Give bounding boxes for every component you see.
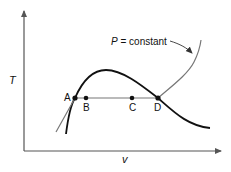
pressure-symbol: P bbox=[111, 36, 118, 47]
point-d-label: D bbox=[154, 103, 161, 113]
curve-label: P = constant bbox=[111, 37, 167, 47]
point-a bbox=[72, 95, 77, 100]
tv-diagram: T v P = constant A B C D bbox=[0, 0, 231, 172]
x-axis-label: v bbox=[122, 154, 128, 165]
point-d bbox=[155, 95, 160, 100]
point-c bbox=[130, 96, 135, 101]
point-b-label: B bbox=[83, 103, 90, 113]
point-a-label: A bbox=[64, 93, 71, 103]
point-b bbox=[84, 96, 89, 101]
point-c-label: C bbox=[129, 103, 136, 113]
label-leader-arrow bbox=[170, 41, 192, 53]
diagram-graphics bbox=[0, 0, 231, 172]
constant-pressure-line bbox=[56, 40, 201, 132]
curve-label-text: = constant bbox=[118, 36, 167, 47]
y-axis-label: T bbox=[9, 75, 16, 86]
